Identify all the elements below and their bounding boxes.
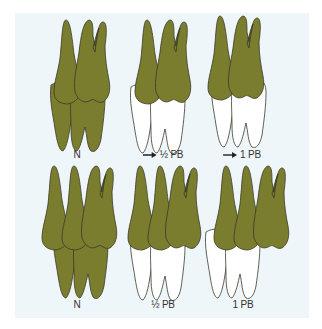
tooth-set-half-pb-bottom	[128, 166, 201, 301]
label-one-pb-top: 1 PB	[223, 149, 261, 160]
label-one-pb-bottom: 1 PB	[233, 299, 254, 310]
tooth-set-half-pb-top	[130, 20, 190, 154]
tooth-set-normal-bottom	[42, 166, 117, 299]
tooth-set-one-pb-top	[208, 16, 266, 148]
label-normal-top: N	[73, 149, 80, 160]
label-half-pb-bottom: ½ PB	[151, 299, 175, 310]
label-normal-bottom: N	[73, 299, 80, 310]
label-half-pb-top: ½ PB	[143, 149, 184, 160]
tooth-set-normal-top	[50, 20, 109, 152]
bottom-row	[42, 166, 289, 301]
right-arrow-icon	[143, 152, 157, 158]
dental-occlusion-illustration	[0, 0, 322, 329]
tooth-set-one-pb-bottom	[205, 166, 288, 299]
right-arrow-icon	[223, 152, 237, 158]
top-row	[50, 16, 266, 154]
